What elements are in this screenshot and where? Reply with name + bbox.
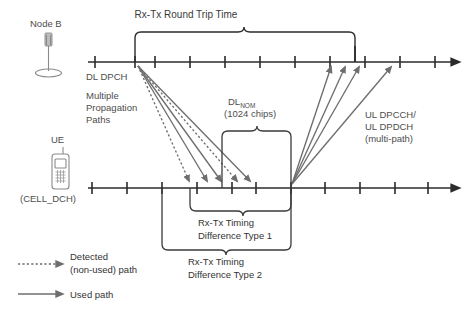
legend [18,264,58,294]
type1-label-line1: Rx-Tx Timing [198,217,254,228]
round-trip-time-label: Rx-Tx Round Trip Time [135,9,238,20]
type2-label-line2: Difference Type 2 [188,269,262,280]
multiple-paths-line1: Multiple [86,90,119,101]
dl-dpch-label: DL DPCH [86,71,127,82]
ue-state-label: (CELL_DCH) [20,193,76,204]
legend-item-0-line1: Detected [70,251,108,262]
node-b-antenna-icon [36,33,62,77]
ue-label: UE [51,134,64,145]
ue-timeline-axis [88,182,452,194]
node-b-timeline-axis [88,56,452,68]
ul-dpdch-label: UL DPDCH [365,121,413,132]
ue-handset-icon [52,147,69,189]
type1-label-line2: Difference Type 1 [198,230,272,241]
legend-item-0-line2: (non-used) path [70,264,137,275]
ul-dpcch-label: UL DPCCH/ [365,109,416,120]
brace-rx-tx-timing-difference-type-1 [190,188,291,216]
node-b-label: Node B [30,18,62,29]
ul-multipath-label: (multi-path) [365,133,413,144]
multiple-paths-line3: Paths [86,114,111,125]
legend-item-1-line1: Used path [70,289,113,300]
multiple-paths-line2: Propagation [86,102,137,113]
dl-nom-label: DLNOM [228,96,255,109]
dl-nom-chips-label: (1024 chips) [224,108,276,119]
brace-dl-nom [222,126,291,188]
type2-label-line1: Rx-Tx Timing [188,256,244,267]
brace-rx-tx-round-trip-time [135,27,355,62]
downlink-propagation-paths [138,66,250,181]
diagram-canvas: Node B UE (CELL_DCH) [0,0,468,312]
